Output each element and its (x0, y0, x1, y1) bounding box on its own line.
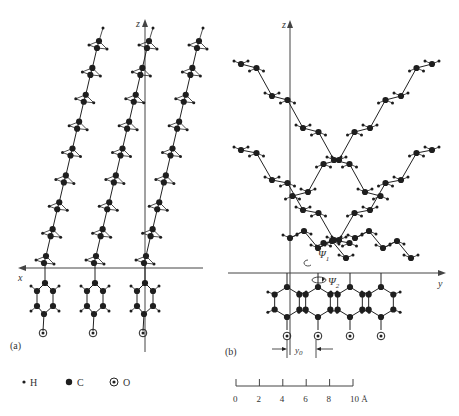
scale-tick-label: 0 (233, 394, 238, 404)
hydrogen-atom (377, 185, 380, 188)
hydrogen-atom (408, 70, 411, 73)
carbon-atom (142, 280, 148, 286)
hydrogen-atom (158, 285, 161, 288)
hydrogen-atom (109, 236, 112, 239)
hydrogen-atom (153, 263, 156, 266)
carbon-atom (253, 150, 259, 156)
carbon-atom (34, 288, 40, 294)
molecular-structure-figure: z x (a) z y Ψ1 Ψ2 y0 (b) (0, 0, 459, 416)
hydrogen-atom (266, 311, 269, 314)
hydrogen-atom (324, 134, 327, 137)
hydrogen-atom (310, 233, 313, 236)
carbon-atom (269, 177, 275, 183)
hydrogen-atom (172, 182, 175, 185)
hydrogen-atom (393, 176, 396, 179)
carbon-atom (329, 238, 335, 244)
alkyl-chains-b (233, 60, 441, 262)
carbon-atom (87, 72, 93, 78)
hydrogen-atom (345, 156, 348, 159)
carbon-atom (238, 61, 244, 67)
carbon-atom (390, 306, 396, 312)
psi1-rotation-icon (304, 260, 311, 266)
x-axis-label-a: x (17, 272, 23, 283)
hydrogen-atom (407, 92, 410, 95)
carbon-atom (81, 99, 87, 105)
carbon-atom (362, 189, 368, 195)
carbon-atom (148, 233, 154, 239)
panel-b-label: (b) (225, 346, 237, 358)
hydrogen-atom (262, 155, 265, 158)
hydrogen-atom (159, 236, 162, 239)
hydrogen-atom (389, 243, 392, 246)
hydrogen-atom (41, 232, 44, 235)
hydrogen-atom (309, 124, 312, 127)
panel-a-label: (a) (10, 340, 21, 352)
hydrogen-atom (116, 209, 119, 212)
oxygen-atom-center (42, 332, 45, 335)
hydrogen-atom (407, 176, 410, 179)
hydrogen-atom (85, 259, 88, 262)
benzene-ring (360, 273, 401, 340)
z-axis-arrow-a (142, 19, 148, 27)
alkyl-chain (284, 60, 441, 201)
hydrogen-atom (262, 70, 265, 73)
hydrogen-atom (30, 285, 33, 288)
hydrogen-atom (122, 182, 125, 185)
hydrogen-atom (148, 205, 151, 208)
hydrogen-atom (103, 263, 106, 266)
hydrogen-atom (136, 128, 139, 131)
carbon-atom (284, 97, 290, 103)
hydrogen-atom (88, 44, 91, 47)
carbon-atom (300, 125, 306, 131)
carbon-atom (284, 180, 290, 186)
hydrogen-atom (264, 92, 267, 95)
z-axis-label-b: z (281, 19, 286, 30)
carbon-atom (74, 126, 80, 132)
hydrogen-atom (295, 206, 298, 209)
hydrogen-atom (79, 155, 82, 158)
hydrogen-atom (99, 74, 102, 77)
alkyl-chain (135, 27, 209, 267)
hydrogen-atom (168, 124, 171, 127)
carbon-atom (301, 228, 307, 234)
oxygen-atom-center (286, 335, 289, 338)
carbon-atom (303, 306, 309, 312)
carbon-atom (48, 233, 54, 239)
x-axis-arrow-a (18, 265, 26, 271)
hydrogen-atom (310, 215, 313, 218)
hydrogen-symbol-icon (22, 380, 25, 383)
hydrogen-atom (300, 188, 303, 191)
carbon-atom (413, 150, 419, 156)
hydrogen-atom (154, 178, 157, 181)
carbon-atom (380, 245, 386, 251)
carbon-atom (351, 210, 357, 216)
carbon-atom (50, 303, 56, 309)
carbon-atom (272, 291, 278, 297)
hydrogen-atom (86, 128, 89, 131)
hydrogen-atom (296, 233, 299, 236)
scale-tick-label: 8 (327, 394, 332, 404)
oxygen-atom-center (380, 335, 383, 338)
carbon-atom (335, 291, 341, 297)
hydrogen-atom (376, 206, 379, 209)
hydrogen-atom (341, 166, 344, 169)
hydrogen-atom (360, 290, 363, 293)
hydrogen-atom (438, 146, 441, 149)
hydrogen-atom (293, 185, 296, 188)
legend-label-o: O (123, 377, 130, 388)
hydrogen-atom (161, 151, 164, 154)
hydrogen-atom (48, 205, 51, 208)
hydrogen-atom (360, 215, 363, 218)
hydrogen-atom (81, 70, 84, 73)
hydrogen-atom (192, 101, 195, 104)
hydrogen-atom (66, 209, 69, 212)
carbon-atom (84, 288, 90, 294)
panel-a: z x (a) (10, 18, 209, 352)
hydrogen-atom (141, 232, 144, 235)
legend-label-c: C (77, 377, 84, 388)
carbon-atom (366, 228, 372, 234)
carbon-atom (167, 152, 173, 158)
hydrogen-atom (264, 176, 267, 179)
hydrogen-atom (74, 97, 77, 100)
hydrogen-atom (338, 243, 341, 246)
